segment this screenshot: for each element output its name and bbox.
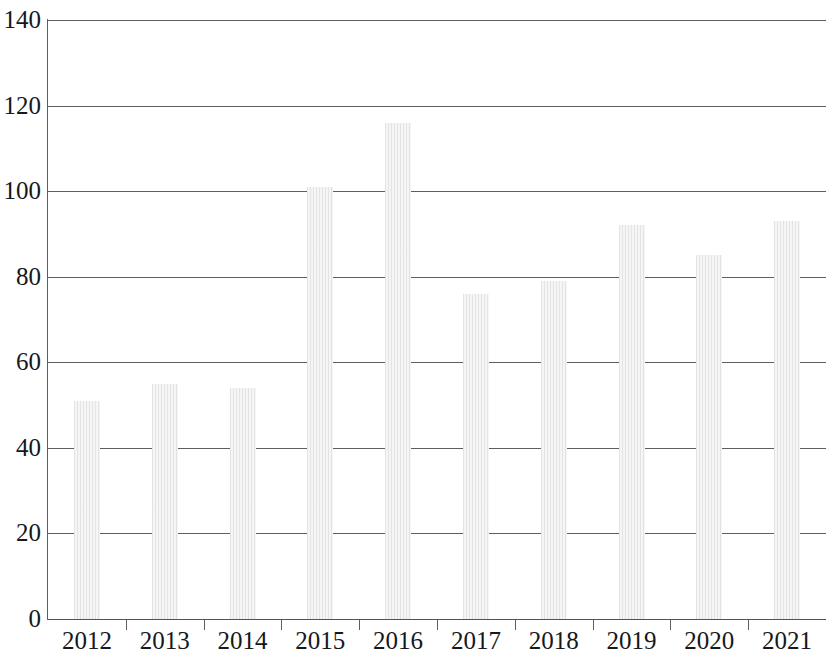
x-axis-tick-8 (748, 619, 749, 630)
x-axis-label-2016: 2016 (373, 628, 423, 654)
x-axis-tick-7 (670, 619, 671, 630)
y-axis-label-80: 80 (0, 263, 41, 291)
y-axis-label-40: 40 (0, 434, 41, 462)
bar-chart: 020406080100120140 201220132014201520162… (0, 0, 826, 655)
bar-2020[interactable] (696, 255, 722, 619)
x-axis-label-2015: 2015 (295, 628, 345, 654)
gridline-140 (48, 20, 826, 21)
x-axis-tick-0 (126, 619, 127, 630)
y-axis-label-120: 120 (0, 92, 41, 120)
x-axis-label-2018: 2018 (529, 628, 579, 654)
x-axis-tick-6 (593, 619, 594, 630)
x-axis-tick-3 (359, 619, 360, 630)
x-axis-tick-2 (281, 619, 282, 630)
x-axis-label-2012: 2012 (62, 628, 112, 654)
y-axis-label-140: 140 (0, 6, 41, 34)
bar-2018[interactable] (541, 281, 567, 619)
x-axis-label-2021: 2021 (762, 628, 812, 654)
bar-2014[interactable] (230, 388, 256, 619)
x-axis-label-2020: 2020 (684, 628, 734, 654)
y-axis-label-100: 100 (0, 177, 41, 205)
y-axis-label-20: 20 (0, 519, 41, 547)
x-axis-label-2013: 2013 (140, 628, 190, 654)
gridline-120 (48, 106, 826, 107)
x-axis-tick-5 (515, 619, 516, 630)
bar-2021[interactable] (774, 221, 800, 619)
bar-2015[interactable] (307, 187, 333, 619)
bar-2016[interactable] (385, 123, 411, 619)
gridline-100 (48, 191, 826, 192)
y-axis-label-0: 0 (0, 605, 41, 633)
bar-2013[interactable] (152, 384, 178, 619)
x-axis-label-2019: 2019 (607, 628, 657, 654)
x-axis-tick-4 (437, 619, 438, 630)
x-axis-tick-1 (204, 619, 205, 630)
x-axis-label-2017: 2017 (451, 628, 501, 654)
bar-2012[interactable] (74, 401, 100, 619)
y-axis-label-60: 60 (0, 348, 41, 376)
x-axis-label-2014: 2014 (218, 628, 268, 654)
bar-2017[interactable] (463, 294, 489, 619)
bar-2019[interactable] (619, 225, 645, 619)
